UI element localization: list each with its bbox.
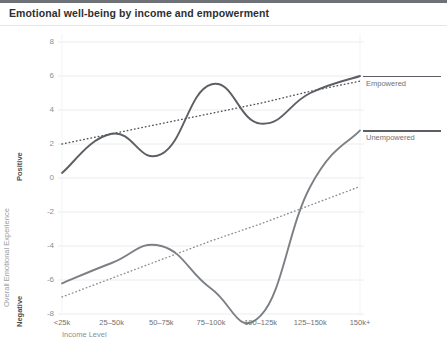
y-axis-title: Overall Emotional Experience [2, 208, 11, 307]
x-tick-label: 50–75k [135, 318, 187, 327]
y-tick-label: 0 [32, 173, 54, 182]
chart-gridlines [58, 34, 364, 316]
x-tick-label: 125–150k [284, 318, 336, 327]
chart-container: 86420-2-4-6-8 <25k25–50k50–75k75–100k100… [0, 0, 447, 356]
y-tick-label: 8 [32, 37, 54, 46]
chart-series-paths [62, 76, 360, 323]
series-label-unempowered: Unempowered [366, 133, 415, 142]
y-tick-label: -2 [32, 207, 54, 216]
x-tick-label: 25–50k [86, 318, 138, 327]
x-tick-label: 75–100k [185, 318, 237, 327]
y-tick-label: -8 [32, 309, 54, 318]
y-axis-positive-label: Positive [15, 152, 24, 181]
x-axis-title: Income Level [62, 330, 107, 339]
y-tick-label: 2 [32, 139, 54, 148]
y-tick-label: 4 [32, 105, 54, 114]
x-tick-label: <25k [36, 318, 88, 327]
y-tick-label: -6 [32, 275, 54, 284]
x-tick-label: 100–125k [235, 318, 287, 327]
y-axis-negative-label: Negative [15, 296, 24, 327]
series-label-empowered: Empowered [366, 79, 406, 88]
series-line-unempowered [62, 130, 360, 323]
line-chart-plot [0, 0, 447, 356]
series-label-rule [363, 130, 441, 131]
y-tick-label: -4 [32, 241, 54, 250]
x-tick-label: 150k+ [334, 318, 386, 327]
series-label-rule [363, 76, 441, 77]
y-tick-label: 6 [32, 71, 54, 80]
